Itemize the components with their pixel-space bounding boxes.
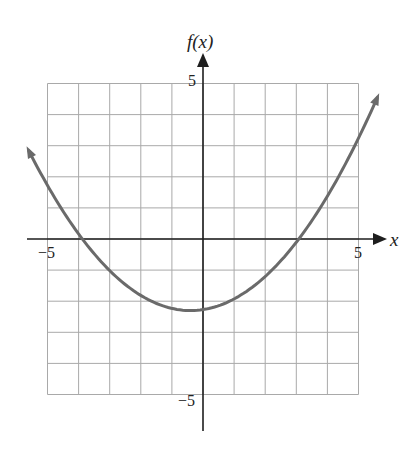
y-axis-label: f(x) <box>187 31 213 53</box>
axes <box>27 53 387 431</box>
y-axis-arrow-icon <box>197 53 209 67</box>
x-axis-label: x <box>389 229 399 250</box>
x-tick-min: −5 <box>38 244 55 261</box>
function-graph: f(x) x −5 5 5 −5 <box>0 0 417 451</box>
curve-left-arrow-icon <box>27 146 36 159</box>
x-tick-max: 5 <box>354 244 362 261</box>
y-tick-max: 5 <box>188 72 196 89</box>
y-tick-min: −5 <box>178 392 195 409</box>
x-axis-arrow-icon <box>373 233 387 245</box>
curve-right-arrow-icon <box>370 93 379 106</box>
